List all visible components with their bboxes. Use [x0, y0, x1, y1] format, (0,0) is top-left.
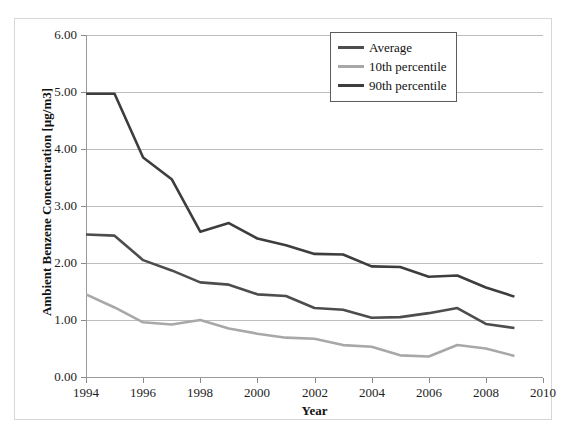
- x-tick-mark: [429, 378, 430, 383]
- x-tick-mark: [486, 378, 487, 383]
- x-tick-mark: [372, 378, 373, 383]
- legend-label: 10th percentile: [369, 60, 447, 73]
- x-tick-mark: [86, 378, 87, 383]
- x-tick-mark: [315, 378, 316, 383]
- chart-legend: Average10th percentile90th percentile: [330, 32, 457, 102]
- series-line: [86, 294, 514, 356]
- legend-label: Average: [369, 41, 412, 54]
- x-tick-mark: [143, 378, 144, 383]
- x-tick-label: 2008: [461, 385, 511, 400]
- legend-item: 10th percentile: [338, 57, 447, 76]
- series-line: [86, 94, 514, 297]
- x-tick-mark: [257, 378, 258, 383]
- x-tick-label: 2002: [290, 385, 340, 400]
- x-tick-label: 2006: [404, 385, 454, 400]
- chart-figure: 0.001.002.003.004.005.006.00 19941996199…: [14, 18, 552, 420]
- x-tick-label: 1996: [118, 385, 168, 400]
- y-tick-label: 6.00: [17, 28, 77, 41]
- legend-label: 90th percentile: [369, 79, 447, 92]
- x-axis-title: Year: [86, 403, 543, 419]
- x-tick-label: 1998: [175, 385, 225, 400]
- x-tick-mark: [200, 378, 201, 383]
- legend-swatch-icon: [338, 65, 364, 68]
- x-tick-label: 2004: [347, 385, 397, 400]
- legend-item: Average: [338, 38, 447, 57]
- x-tick-label: 2000: [232, 385, 282, 400]
- x-tick-label: 1994: [61, 385, 111, 400]
- legend-swatch-icon: [338, 46, 364, 49]
- y-tick-label: 0.00: [17, 370, 77, 383]
- legend-item: 90th percentile: [338, 76, 447, 95]
- legend-swatch-icon: [338, 84, 364, 87]
- x-tick-label: 2010: [518, 385, 568, 400]
- y-axis-title: Ambient Benzene Concentration [µg/m3]: [39, 52, 55, 352]
- x-tick-mark: [543, 378, 544, 383]
- series-plot: [86, 35, 543, 378]
